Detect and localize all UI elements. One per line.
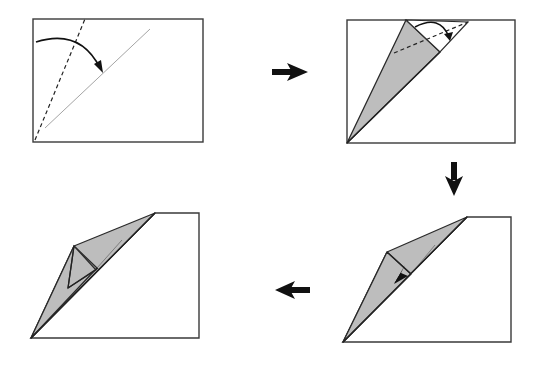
origami-diagram — [0, 0, 534, 366]
step-2-panel — [347, 20, 515, 143]
step-1-panel — [33, 19, 203, 142]
next-step-arrow-down-icon — [445, 162, 463, 196]
paper-sheet — [33, 19, 203, 142]
next-step-arrow-left-icon — [275, 281, 310, 299]
step-4-panel — [31, 213, 199, 338]
step-3-panel — [343, 217, 511, 342]
next-step-arrow-right-icon — [272, 63, 308, 81]
